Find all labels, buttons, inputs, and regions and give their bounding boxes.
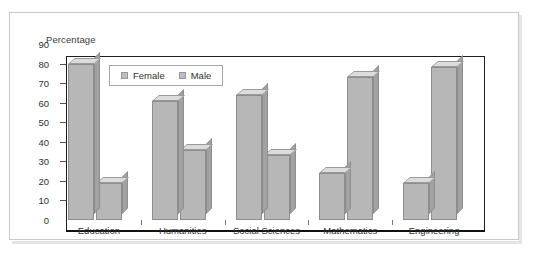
bar-humanities-female xyxy=(152,95,178,220)
bar-front-face xyxy=(319,173,345,220)
bar-mathematics-female xyxy=(319,167,345,220)
x-axis-label-engineering: Engineering xyxy=(409,225,460,236)
legend-label-male: Male xyxy=(191,70,212,81)
y-axis-tick-label: 90 xyxy=(25,39,49,50)
card-shadow-bottom xyxy=(12,241,522,244)
bar-front-face xyxy=(403,183,429,220)
bar-side-face xyxy=(94,52,100,214)
y-axis-tick-label: 40 xyxy=(25,136,49,147)
card-shadow-right xyxy=(519,15,522,244)
bar-education-female xyxy=(68,58,94,220)
bar-front-face xyxy=(236,95,262,220)
legend-item-male: Male xyxy=(179,70,212,81)
x-axis-separator xyxy=(225,220,226,225)
x-axis-separator xyxy=(392,220,393,225)
x-axis-label-education: Education xyxy=(78,225,120,236)
y-axis-tick-label: 50 xyxy=(25,117,49,128)
x-axis-label-social-sciences: Social Sciences xyxy=(233,225,300,236)
chart-card: Percentage 0102030405060708090 Education… xyxy=(9,12,519,240)
legend-label-female: Female xyxy=(133,70,165,81)
chart-legend: Female Male xyxy=(109,65,223,86)
bar-mathematics-male xyxy=(347,71,373,220)
bar-side-face xyxy=(262,83,268,214)
legend-swatch-female xyxy=(121,72,128,79)
bar-side-face xyxy=(178,89,184,214)
bar-front-face xyxy=(347,77,373,220)
bar-engineering-female xyxy=(403,177,429,220)
x-axis-label-humanities: Humanities xyxy=(159,225,207,236)
y-axis-tick-label: 80 xyxy=(25,58,49,69)
bar-front-face xyxy=(68,64,94,220)
bar-side-face xyxy=(457,55,463,214)
x-axis-separator xyxy=(308,220,309,225)
y-axis-tick-label: 60 xyxy=(25,97,49,108)
bar-front-face xyxy=(152,101,178,220)
y-axis-tick-label: 70 xyxy=(25,78,49,89)
y-axis-title: Percentage xyxy=(46,34,96,45)
chart-screenshot: Percentage 0102030405060708090 Education… xyxy=(0,0,539,263)
x-axis-separator xyxy=(141,220,142,225)
x-axis-label-mathematics: Mathematics xyxy=(323,225,377,236)
legend-item-female: Female xyxy=(121,70,165,81)
legend-swatch-male xyxy=(179,72,186,79)
bar-social-sciences-female xyxy=(236,89,262,220)
y-axis-tick-label: 0 xyxy=(25,215,49,226)
y-axis-tick-label: 30 xyxy=(25,156,49,167)
y-axis-tick-label: 10 xyxy=(25,195,49,206)
y-axis-tick-label: 20 xyxy=(25,175,49,186)
bar-side-face xyxy=(373,65,379,214)
